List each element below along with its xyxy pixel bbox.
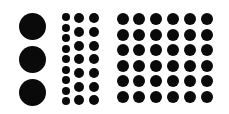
dot-icon: [89, 54, 99, 64]
dot-icon: [89, 68, 99, 78]
dot-icon: [150, 75, 162, 87]
dot-icon: [150, 29, 162, 41]
dot-icon: [167, 13, 179, 25]
dot-icon: [62, 66, 70, 74]
dot-icon: [150, 13, 162, 25]
dot-figure: [0, 0, 229, 114]
dot-icon: [117, 60, 129, 72]
dot-icon: [74, 95, 84, 105]
dot-icon: [62, 55, 70, 63]
dot-icon: [167, 44, 179, 56]
dot-icon: [167, 29, 179, 41]
dot-icon: [167, 91, 179, 103]
dot-icon: [117, 29, 129, 41]
dot-icon: [62, 45, 70, 53]
dot-icon: [62, 76, 70, 84]
dot-icon: [74, 82, 84, 92]
dot-icon: [201, 44, 213, 56]
dot-icon: [150, 44, 162, 56]
dot-icon: [19, 13, 46, 40]
dot-icon: [133, 91, 145, 103]
dot-icon: [62, 13, 70, 21]
dot-icon: [117, 44, 129, 56]
dot-icon: [62, 24, 70, 32]
dot-icon: [74, 54, 84, 64]
dot-icon: [201, 91, 213, 103]
dot-icon: [89, 41, 99, 51]
dot-icon: [133, 60, 145, 72]
dot-icon: [201, 13, 213, 25]
dot-icon: [201, 75, 213, 87]
dot-icon: [19, 46, 46, 73]
dot-icon: [74, 68, 84, 78]
dot-icon: [150, 91, 162, 103]
dot-icon: [184, 44, 196, 56]
dot-icon: [150, 60, 162, 72]
dot-icon: [133, 44, 145, 56]
dot-icon: [133, 13, 145, 25]
dot-icon: [89, 95, 99, 105]
dot-icon: [184, 75, 196, 87]
dot-icon: [89, 13, 99, 23]
dot-icon: [184, 29, 196, 41]
dot-icon: [167, 60, 179, 72]
dot-icon: [117, 13, 129, 25]
dot-icon: [133, 75, 145, 87]
dot-icon: [184, 60, 196, 72]
dot-icon: [117, 75, 129, 87]
dot-icon: [62, 87, 70, 95]
dot-icon: [201, 29, 213, 41]
dot-icon: [19, 79, 46, 106]
dot-icon: [167, 75, 179, 87]
dot-icon: [184, 13, 196, 25]
dot-icon: [62, 97, 70, 105]
dot-icon: [62, 34, 70, 42]
dot-icon: [89, 27, 99, 37]
dot-icon: [133, 29, 145, 41]
dot-icon: [117, 91, 129, 103]
dot-icon: [89, 82, 99, 92]
dot-icon: [201, 60, 213, 72]
dot-icon: [74, 41, 84, 51]
dot-icon: [184, 91, 196, 103]
dot-icon: [74, 27, 84, 37]
dot-icon: [74, 13, 84, 23]
